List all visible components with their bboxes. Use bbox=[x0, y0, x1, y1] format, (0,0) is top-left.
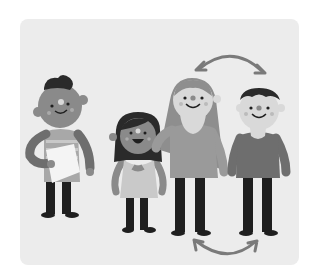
figure-man-short-hair bbox=[232, 88, 286, 236]
figure-boy-with-paper bbox=[30, 75, 94, 218]
figure-woman-long-hair bbox=[156, 78, 224, 236]
swap-arrow-top-icon bbox=[196, 56, 265, 73]
swap-arrow-bottom-icon bbox=[194, 240, 257, 254]
people-illustration bbox=[0, 0, 313, 276]
figure-girl-smiling bbox=[109, 112, 163, 233]
